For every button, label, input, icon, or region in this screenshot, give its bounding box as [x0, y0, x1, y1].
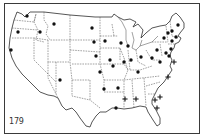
- cross-marker-fl: [154, 105, 159, 110]
- dot-marker-ct: [170, 39, 173, 42]
- dot-marker-la: [114, 106, 117, 109]
- dot-marker-il: [122, 60, 125, 63]
- dot-marker-wv: [150, 56, 153, 59]
- dot-marker-wa: [25, 14, 28, 17]
- dot-marker-ks: [98, 70, 101, 73]
- us-outline: [9, 12, 184, 127]
- dot-marker-nj: [169, 47, 172, 50]
- great-lakes-shoreline: [118, 17, 158, 50]
- dot-marker-md: [164, 51, 167, 54]
- dot-marker-ca: [9, 48, 12, 51]
- us-map: [0, 0, 204, 137]
- dot-marker-va: [158, 60, 161, 63]
- state-borders: [12, 12, 178, 108]
- dot-marker-ok: [102, 87, 105, 90]
- dot-marker-mi: [126, 44, 129, 47]
- dot-marker-id: [38, 30, 41, 33]
- dot-marker-pa: [155, 48, 158, 51]
- dot-marker-mn: [103, 39, 106, 42]
- dot-marker-ne: [94, 54, 97, 57]
- dot-marker-mo: [111, 64, 114, 67]
- dot-marker-wi: [119, 41, 122, 44]
- dot-marker-ky: [136, 70, 139, 73]
- dot-marker-de: [167, 54, 170, 57]
- dot-marker-vt: [166, 31, 169, 34]
- cross-marker-ms: [122, 96, 127, 101]
- dot-marker-oh: [139, 55, 142, 58]
- dot-marker-sd: [92, 40, 95, 43]
- dot-marker-ny: [162, 36, 165, 39]
- dot-marker-ar: [116, 86, 119, 89]
- dot-marker-me: [176, 23, 179, 26]
- dot-marker-ia: [108, 58, 111, 61]
- dot-marker-mt: [52, 22, 55, 25]
- dot-marker-or: [16, 30, 19, 33]
- figure-number-label: 179: [9, 117, 24, 126]
- dot-marker-ma: [174, 35, 177, 38]
- dot-marker-tx-panhandle: [58, 78, 61, 81]
- dot-marker-nd: [90, 26, 93, 29]
- cross-marker-sc: [157, 94, 162, 99]
- dot-marker-in: [129, 58, 132, 61]
- cross-marker-al: [133, 96, 138, 101]
- dot-marker-nh: [170, 29, 173, 32]
